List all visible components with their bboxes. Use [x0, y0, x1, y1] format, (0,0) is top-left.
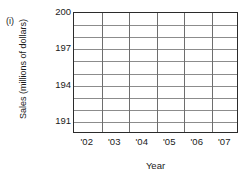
plot-area: [73, 12, 238, 133]
x-tick-label: '04: [128, 136, 156, 147]
x-tick-label: '06: [183, 136, 211, 147]
vertical-gridline: [157, 13, 158, 132]
vertical-gridline: [184, 13, 185, 132]
x-tick-label: '02: [73, 136, 101, 147]
y-axis-title: Sales (millions of dollars): [18, 9, 28, 129]
x-axis-title: Year: [73, 160, 238, 171]
horizontal-gridline: [74, 25, 237, 26]
vertical-gridline: [212, 13, 213, 132]
chart-figure: (i) Sales (millions of dollars) 20019719…: [0, 0, 250, 183]
horizontal-gridline: [74, 74, 237, 75]
y-tick-label: 200: [46, 7, 71, 17]
y-tick-label: 197: [46, 43, 71, 53]
horizontal-gridline: [74, 13, 237, 14]
y-axis-tick-labels: 200197194191: [46, 0, 71, 183]
horizontal-gridline: [74, 86, 237, 87]
horizontal-gridline: [74, 122, 237, 123]
horizontal-gridline: [74, 49, 237, 50]
horizontal-gridline: [74, 110, 237, 111]
x-tick-label: '03: [101, 136, 129, 147]
vertical-gridline: [129, 13, 130, 132]
x-tick-label: '05: [156, 136, 184, 147]
part-label: (i): [6, 16, 14, 26]
vertical-gridline: [102, 13, 103, 132]
horizontal-gridline: [74, 133, 237, 134]
horizontal-gridline: [74, 37, 237, 38]
horizontal-gridline: [74, 61, 237, 62]
y-tick-label: 194: [46, 80, 71, 90]
horizontal-gridline: [74, 98, 237, 99]
gridlines: [74, 13, 237, 132]
x-tick-label: '07: [211, 136, 239, 147]
x-axis-tick-labels: '02'03'04'05'06'07: [73, 136, 238, 150]
y-tick-label: 191: [46, 116, 71, 126]
